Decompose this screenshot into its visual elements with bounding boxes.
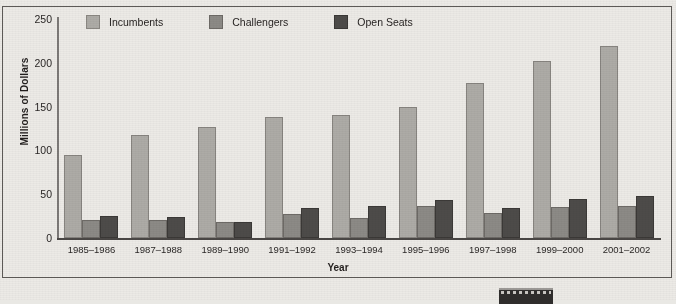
y-tick-250: 250 [18, 14, 52, 25]
x-tick-label: 1999–2000 [536, 244, 584, 255]
bar [618, 206, 636, 238]
bar [350, 218, 368, 238]
y-tick-100: 100 [18, 145, 52, 156]
legend-label: Challengers [232, 16, 288, 28]
bar [399, 107, 417, 238]
y-tick-0: 0 [18, 233, 52, 244]
plot-area [58, 19, 660, 238]
y-tick-200: 200 [18, 58, 52, 69]
bar [234, 222, 252, 238]
bar [167, 217, 185, 238]
bar [600, 46, 618, 238]
legend-swatch-icon [86, 15, 100, 29]
bar [149, 220, 167, 238]
x-tick-label: 1989–1990 [201, 244, 249, 255]
y-tick-150: 150 [18, 101, 52, 112]
x-tick-label: 2001–2002 [603, 244, 651, 255]
bar-group [64, 19, 118, 238]
x-axis-title: Year [0, 262, 676, 273]
legend-swatch-icon [334, 15, 348, 29]
bar [332, 115, 350, 238]
x-tick-label: 1993–1994 [335, 244, 383, 255]
bar [301, 208, 319, 238]
bar [82, 220, 100, 238]
bar [417, 206, 435, 238]
legend-label: Open Seats [357, 16, 412, 28]
bar-group [332, 19, 386, 238]
bar [435, 200, 453, 238]
bar [569, 199, 587, 238]
legend-item-open-seats: Open Seats [334, 15, 412, 29]
legend-item-challengers: Challengers [209, 15, 288, 29]
bar-group [600, 19, 654, 238]
y-tick-50: 50 [18, 189, 52, 200]
bar [551, 207, 569, 238]
bar-group [466, 19, 520, 238]
bar-group [399, 19, 453, 238]
bar [265, 117, 283, 238]
legend-item-incumbents: Incumbents [86, 15, 163, 29]
bar [283, 214, 301, 238]
bar [466, 83, 484, 238]
x-tick-label: 1985–1986 [68, 244, 116, 255]
bar [484, 213, 502, 238]
bar [100, 216, 118, 238]
y-axis-tick-labels: 050100150200250 [14, 19, 52, 238]
x-axis-line [57, 238, 661, 240]
x-tick-label: 1995–1996 [402, 244, 450, 255]
x-tick-label: 1991–1992 [268, 244, 316, 255]
scan-artifact [499, 288, 553, 304]
bar-group [533, 19, 587, 238]
bar [533, 61, 551, 238]
bar [64, 155, 82, 238]
bar [368, 206, 386, 238]
bar [198, 127, 216, 238]
bar-group [265, 19, 319, 238]
bar [636, 196, 654, 238]
legend-label: Incumbents [109, 16, 163, 28]
bar-group [198, 19, 252, 238]
legend-swatch-icon [209, 15, 223, 29]
bar [502, 208, 520, 238]
bar [131, 135, 149, 238]
x-tick-label: 1997–1998 [469, 244, 517, 255]
bar-group [131, 19, 185, 238]
chart-legend: IncumbentsChallengersOpen Seats [86, 15, 413, 29]
x-tick-label: 1987–1988 [135, 244, 183, 255]
bar [216, 222, 234, 238]
